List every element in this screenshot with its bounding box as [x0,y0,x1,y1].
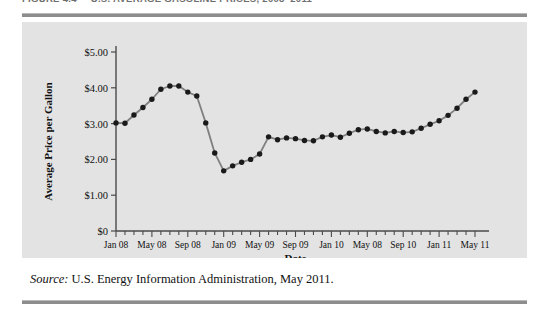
y-axis-tick-label: $0 [98,226,109,237]
data-point-marker: Nov 08: $3.02 [203,120,208,125]
data-point-marker: Oct 08: $3.77 [194,93,199,98]
data-point-marker: May 09: $2.15 [257,151,262,156]
y-axis-tick-label: $4.00 [84,83,108,94]
data-point-marker: Jan 10: $2.68 [329,132,334,137]
y-axis-tick-label: $1.00 [84,190,108,201]
data-point-marker: Mar 09: $1.92 [239,160,244,165]
figure-caption-title: U.S. AVERAGE GASOLINE PRICES, 2008–2011 [91,0,312,4]
data-point-marker: Sep 08: $3.88 [185,89,190,94]
data-point-marker: Feb 11: $3.23 [445,113,450,118]
data-point-marker: Sep 10: $2.75 [401,130,406,135]
data-point-marker: Jan 11: $3.08 [436,118,441,123]
data-point-marker: Jul 10: $2.74 [383,130,388,135]
x-axis-tick-label: May 09 [245,240,275,250]
data-point-marker: Dec 09: $2.63 [320,134,325,139]
x-axis-tick-label: Sep 10 [390,240,416,250]
data-point-marker: Feb 09: $1.82 [230,163,235,168]
data-point-marker: Jul 08: $4.05 [167,83,172,88]
data-point-marker: May 10: $2.85 [365,126,370,131]
figure-caption: FIGURE 4.4U.S. AVERAGE GASOLINE PRICES, … [22,0,312,6]
data-point-marker: Apr 10: $2.83 [356,127,361,132]
source-note: Source: U.S. Energy Information Administ… [30,272,334,287]
x-axis-tick-label: Sep 09 [282,240,308,250]
y-axis-tick-label: $3.00 [84,119,108,130]
data-point-marker: Oct 09: $2.53 [302,138,307,143]
data-point-marker: Dec 08: $2.18 [212,150,217,155]
data-point-marker: Mar 11: $3.43 [454,106,459,111]
y-axis-tick-label: $5.00 [84,47,108,58]
data-point-marker: Jun 09: $2.63 [266,134,271,139]
data-point-marker: Nov 09: $2.52 [311,138,316,143]
figure-container: FIGURE 4.4U.S. AVERAGE GASOLINE PRICES, … [0,0,549,320]
x-axis-title: Date [285,252,307,258]
data-point-marker: Mar 10: $2.73 [347,131,352,136]
x-axis-tick-label: Jan 08 [104,240,129,250]
divider-top [22,13,527,17]
data-point-marker: Feb 10: $2.62 [338,135,343,140]
x-axis-tick-label: Jan 09 [211,240,236,250]
x-axis-tick-label: Sep 08 [175,240,201,250]
data-point-marker: Aug 08: $4.05 [176,83,181,88]
chart-plot-area: $0$1.00$2.00$3.00$4.00$5.00Average Price… [22,22,527,258]
data-point-marker: Nov 10: $2.87 [418,126,423,131]
x-axis-tick-label: May 08 [137,240,167,250]
y-axis-title: Average Price per Gallon [42,82,54,200]
data-point-marker: Jan 09: $1.68 [221,168,226,173]
data-point-marker: Jan 08: $3.02 [113,120,118,125]
x-axis-tick-label: May 08 [353,240,383,250]
data-point-marker: Dec 10: $2.98 [427,122,432,127]
data-point-marker: Mar 08: $3.24 [131,112,136,117]
divider-bottom [22,300,527,304]
data-point-marker: Aug 09: $2.60 [284,135,289,140]
data-point-marker: Sep 09: $2.58 [293,136,298,141]
data-point-marker: Jun 08: $3.96 [158,87,163,92]
data-point-marker: Apr 09: $2.00 [248,157,253,162]
source-text: U.S. Energy Information Administration, … [72,272,334,286]
data-point-marker: May 08: $3.68 [149,97,154,102]
line-chart: $0$1.00$2.00$3.00$4.00$5.00Average Price… [22,22,527,258]
data-point-marker: May 11: $3.88 [472,89,477,94]
data-point-marker: Apr 08: $3.45 [140,105,145,110]
figure-caption-number: FIGURE 4.4 [22,0,77,4]
x-axis-tick-label: Jan 11 [427,240,451,250]
x-axis-tick-label: May 11 [461,240,490,250]
data-point-marker: Jun 10: $2.78 [374,129,379,134]
chart-panel: $0$1.00$2.00$3.00$4.00$5.00Average Price… [22,22,527,258]
source-label: Source: [30,272,68,286]
data-point-marker: Apr 11: $3.68 [463,97,468,102]
x-axis-tick-label: Jan 10 [319,240,344,250]
data-point-marker: Feb 08: $3.01 [122,121,127,126]
data-point-marker: Aug 10: $2.78 [392,129,397,134]
data-point-marker: Jul 09: $2.55 [275,137,280,142]
y-axis-tick-label: $2.00 [84,154,108,165]
data-point-marker: Oct 10: $2.77 [409,129,414,134]
